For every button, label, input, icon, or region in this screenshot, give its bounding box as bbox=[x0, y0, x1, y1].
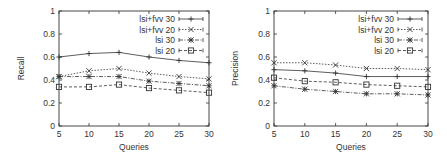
x-tick-label: 10 bbox=[84, 129, 94, 139]
y-tick-label: 0.4 bbox=[258, 75, 270, 85]
x-tick-label: 25 bbox=[392, 129, 402, 139]
x-tick-label: 20 bbox=[362, 129, 372, 139]
svg-text:lsi+fvv 30: lsi+fvv 30 bbox=[358, 14, 394, 24]
y-tick-label: 0.8 bbox=[43, 29, 55, 39]
x-tick-label: 10 bbox=[300, 129, 310, 139]
legend-entry: lsi 20 bbox=[374, 46, 422, 56]
series-lsi-30 bbox=[271, 83, 430, 97]
svg-text:lsi 30: lsi 30 bbox=[374, 35, 394, 45]
x-tick-label: 30 bbox=[204, 129, 214, 139]
x-tick-label: 20 bbox=[144, 129, 154, 139]
y-tick-label: 0.2 bbox=[43, 98, 55, 108]
x-axis-label: Queries bbox=[119, 142, 149, 152]
svg-text:lsi 30: lsi 30 bbox=[155, 35, 175, 45]
x-tick-label: 30 bbox=[423, 129, 433, 139]
y-axis-label: Recall bbox=[16, 57, 26, 81]
legend-entry: lsi+fvv 20 bbox=[139, 25, 203, 35]
x-tick-label: 15 bbox=[331, 129, 341, 139]
y-tick-label: 1 bbox=[50, 6, 55, 16]
y-tick-label: 0.6 bbox=[43, 52, 55, 62]
y-tick-label: 0.4 bbox=[43, 75, 55, 85]
x-tick-label: 25 bbox=[174, 129, 184, 139]
x-tick-label: 5 bbox=[272, 129, 277, 139]
x-tick-label: 5 bbox=[57, 129, 62, 139]
y-tick-label: 0.6 bbox=[258, 52, 270, 62]
legend-entry: lsi+fvv 30 bbox=[139, 14, 203, 24]
y-tick-label: 1 bbox=[265, 6, 270, 16]
y-axis-label: Precision bbox=[230, 51, 240, 86]
precision-chart: 00.20.40.60.8151015202530QueriesPrecisio… bbox=[224, 0, 447, 158]
x-tick-label: 15 bbox=[114, 129, 124, 139]
svg-text:lsi+fvv 30: lsi+fvv 30 bbox=[139, 14, 175, 24]
legend-entry: lsi 30 bbox=[155, 35, 203, 45]
legend-entry: lsi 30 bbox=[374, 35, 422, 45]
svg-text:lsi+fvv 20: lsi+fvv 20 bbox=[358, 25, 394, 35]
series-lsi-20 bbox=[271, 75, 430, 89]
svg-text:lsi+fvv 20: lsi+fvv 20 bbox=[139, 25, 175, 35]
recall-chart: 00.20.40.60.8151015202530QueriesRecallls… bbox=[0, 0, 224, 158]
legend-entry: lsi+fvv 30 bbox=[358, 14, 422, 24]
y-tick-label: 0.2 bbox=[258, 98, 270, 108]
svg-text:lsi 20: lsi 20 bbox=[155, 46, 175, 56]
legend-entry: lsi+fvv 20 bbox=[358, 25, 422, 35]
y-tick-label: 0.8 bbox=[258, 29, 270, 39]
x-axis-label: Queries bbox=[336, 142, 366, 152]
y-tick-label: 0 bbox=[50, 121, 55, 131]
legend-entry: lsi 20 bbox=[155, 46, 203, 56]
y-tick-label: 0 bbox=[265, 121, 270, 131]
svg-text:lsi 20: lsi 20 bbox=[374, 46, 394, 56]
